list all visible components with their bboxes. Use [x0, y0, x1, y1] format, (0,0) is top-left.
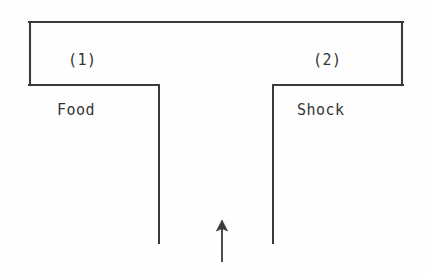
arm-2-contents-label: Shock	[297, 101, 345, 119]
arm-1-contents-label: Food	[57, 101, 95, 119]
arm-2-number-label: (2)	[313, 51, 342, 69]
t-maze-figure: (1) (2) Food Shock	[0, 0, 429, 276]
t-maze-drawing	[0, 0, 429, 276]
arm-1-number-label: (1)	[68, 51, 97, 69]
